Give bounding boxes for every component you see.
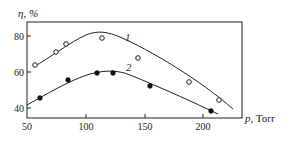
data-point (148, 84, 153, 89)
data-point (136, 56, 141, 61)
data-point (95, 71, 100, 76)
x-axis-label: p, Torr (244, 112, 275, 124)
data-point (64, 42, 69, 47)
curve-2-fit (27, 71, 218, 114)
x-tick-50: 50 (22, 121, 32, 132)
x-axis-ticks (86, 114, 203, 118)
data-point (187, 80, 192, 85)
data-point (111, 71, 116, 76)
curve-1-fit (33, 32, 233, 109)
x-tick-150: 150 (138, 121, 153, 132)
data-point (66, 78, 71, 83)
y-tick-80: 80 (14, 31, 24, 42)
data-point (100, 36, 105, 41)
curve-1-label: 1 (125, 31, 131, 43)
data-point (209, 109, 214, 114)
curve-2-label: 2 (126, 61, 132, 73)
data-point (33, 63, 38, 68)
data-point (217, 98, 222, 103)
y-tick-60: 60 (14, 67, 24, 78)
y-axis-label: η, % (18, 7, 38, 19)
data-point (38, 96, 43, 101)
plot-frame (27, 22, 242, 118)
chart: 80 60 40 50 100 150 200 η, % p, Torr 1 2 (0, 0, 289, 141)
x-tick-200: 200 (196, 121, 211, 132)
x-tick-100: 100 (79, 121, 94, 132)
data-point (54, 50, 59, 55)
series-2-markers (38, 71, 214, 114)
y-axis-ticks (27, 36, 31, 108)
x-axis-unit: , Torr (251, 112, 275, 124)
y-tick-40: 40 (14, 103, 24, 114)
